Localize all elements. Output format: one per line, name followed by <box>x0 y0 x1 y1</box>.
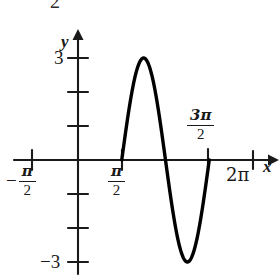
x-axis-label: x <box>263 158 272 175</box>
fraction-denominator: 2 <box>187 126 214 143</box>
minus-sign: − <box>6 171 17 190</box>
x-tick-label-three-half-pi: 3π 2 <box>187 108 214 143</box>
x-tick-label-half-pi: π 2 <box>108 164 125 199</box>
two-pi-text: 2π <box>226 164 249 185</box>
y-axis <box>73 29 84 274</box>
x-tick-label-neg-half-pi: − π 2 <box>6 164 36 199</box>
y-tick-label-3: 3 <box>54 48 64 67</box>
fraction-three-half-pi: 3π 2 <box>187 108 214 143</box>
y-axis-arrowhead <box>73 29 84 40</box>
fraction-half-pi: π 2 <box>108 164 125 199</box>
fraction-numerator: π <box>108 164 125 182</box>
y-tick-label-neg3: −3 <box>40 252 60 271</box>
coordinate-plot <box>0 0 280 277</box>
sine-curve-figure: 2 <box>0 0 280 277</box>
fraction-neg-half-pi: π 2 <box>19 164 36 199</box>
fraction-numerator: π <box>19 164 36 182</box>
x-tick-label-two-pi: 2π <box>226 166 249 184</box>
fraction-denominator: 2 <box>108 182 125 199</box>
fraction-denominator: 2 <box>19 182 36 199</box>
fraction-numerator: 3π <box>187 108 214 126</box>
